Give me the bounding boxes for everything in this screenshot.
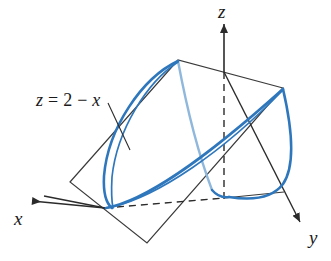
equation-equals: = xyxy=(48,90,58,110)
figure-3d-plane-diagram: z=2−x x y z xyxy=(0,0,331,261)
equation-minus: − xyxy=(77,90,87,110)
left-parabola-rim xyxy=(112,62,178,208)
plane-equation-label: z=2−x xyxy=(35,90,100,110)
intersection-curve xyxy=(106,89,283,208)
plane-outline xyxy=(70,60,283,243)
left-parabola-curve xyxy=(104,61,178,208)
z-axis-label: z xyxy=(217,1,226,22)
trough-bottom-curve xyxy=(212,190,229,197)
diagram-canvas: z=2−x x y z xyxy=(0,0,331,261)
x-axis-line xyxy=(32,201,105,208)
plane-parallelogram xyxy=(70,60,283,243)
equation-x: x xyxy=(91,90,100,110)
y-axis-label: y xyxy=(307,227,318,248)
y-axis-line xyxy=(224,72,300,222)
axes-group xyxy=(32,24,300,222)
x-axis-label: x xyxy=(13,208,23,229)
equation-z: z xyxy=(35,90,43,110)
equation-two: 2 xyxy=(63,90,72,110)
